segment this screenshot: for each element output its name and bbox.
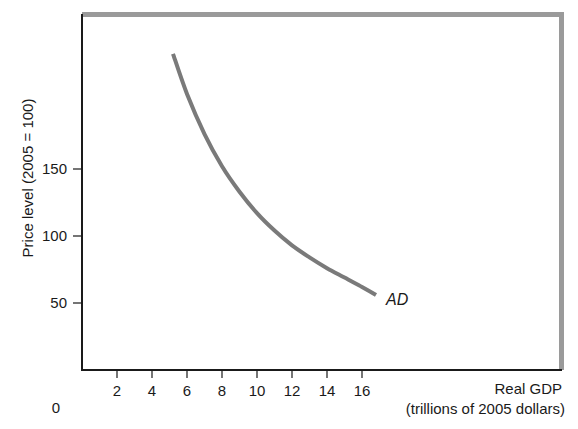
x-tick-label: 16 — [354, 382, 371, 399]
ad-chart: 50100150 246810121416 0 AD Real GDP (tri… — [0, 0, 578, 429]
x-axis-title: Real GDP — [494, 380, 562, 397]
y-axis-title: Price level (2005 = 100) — [19, 99, 36, 258]
x-tick-label: 8 — [218, 382, 226, 399]
plot-frame — [82, 12, 564, 370]
x-tick-label: 12 — [284, 382, 301, 399]
y-ticks: 50100150 — [42, 160, 82, 311]
x-tick-label: 2 — [113, 382, 121, 399]
frame-top — [82, 12, 564, 17]
ad-curve-label: AD — [385, 291, 409, 308]
x-tick-label: 10 — [249, 382, 266, 399]
frame-right — [559, 12, 564, 370]
ad-curve — [173, 54, 376, 295]
x-tick-label: 4 — [148, 382, 156, 399]
y-tick-label: 50 — [50, 294, 67, 311]
x-tick-label: 14 — [319, 382, 336, 399]
y-tick-label: 100 — [42, 227, 67, 244]
origin-label: 0 — [52, 399, 60, 416]
x-ticks: 246810121416 — [113, 370, 371, 399]
x-tick-label: 6 — [183, 382, 191, 399]
y-tick-label: 150 — [42, 160, 67, 177]
x-axis-subtitle: (trillions of 2005 dollars) — [406, 400, 565, 417]
